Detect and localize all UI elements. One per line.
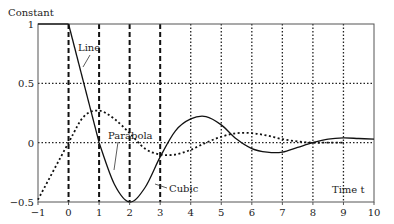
x-tick-label: 8 [310, 207, 316, 218]
x-tick-label: 4 [188, 207, 194, 218]
x-tick-label: 1 [96, 207, 102, 218]
annotation-cubic: Cubic [169, 183, 199, 194]
y-axis-label: Constant [8, 7, 54, 18]
y-tick-label: −0.5 [10, 197, 34, 208]
x-tick-label: 2 [126, 207, 132, 218]
y-tick-label: 0.5 [18, 78, 34, 89]
annotation-parabola: Parabola [108, 130, 153, 141]
x-tick-label: −1 [31, 207, 46, 218]
interpolation-chart: −101234567891010.50−0.5 Constant Line Pa… [0, 0, 394, 224]
y-tick-label: 0 [28, 138, 34, 149]
annotation-line: Line [78, 42, 100, 53]
x-tick-label: 7 [279, 207, 285, 218]
annotation-line-pointer [83, 55, 90, 67]
x-tick-label: 9 [340, 207, 346, 218]
x-axis-label: Time t [332, 184, 364, 195]
y-tick-label: 1 [28, 19, 34, 30]
x-tick-label: 6 [249, 207, 255, 218]
x-tick-label: 10 [368, 207, 381, 218]
x-tick-label: 3 [157, 207, 163, 218]
x-tick-label: 0 [65, 207, 71, 218]
x-tick-label: 5 [218, 207, 224, 218]
annotation-parabola-pointer [114, 142, 118, 170]
